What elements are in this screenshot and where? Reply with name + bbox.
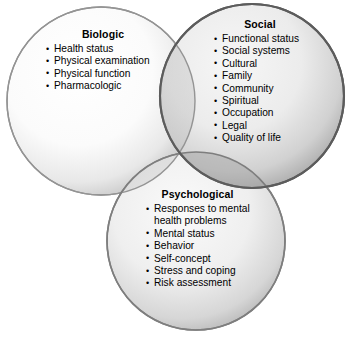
list-item: Legal: [214, 120, 331, 132]
list-item: Mental status: [146, 228, 265, 240]
circle-psychological-title: Psychological: [140, 188, 265, 200]
list-item: Occupation: [214, 107, 331, 119]
list-item: Spiritual: [214, 95, 331, 107]
list-item: Health status: [46, 43, 174, 55]
circle-biologic-list: Health status Physical examination Physi…: [44, 43, 174, 93]
venn-diagram: Biologic Health status Physical examinat…: [0, 0, 356, 346]
circle-social-content: Social Functional status Social systems …: [211, 18, 331, 145]
list-item: Self-concept: [146, 253, 265, 265]
circle-biologic-content: Biologic Health status Physical examinat…: [44, 28, 174, 93]
list-item: Family: [214, 70, 331, 82]
list-item: Physical examination: [46, 55, 174, 67]
list-item: Functional status: [214, 33, 331, 45]
list-item: Pharmacologic: [46, 80, 174, 92]
circle-psychological-list: Responses to mental health problems Ment…: [140, 203, 265, 290]
circle-social-list: Functional status Social systems Cultura…: [211, 33, 331, 145]
list-item: Risk assessment: [146, 277, 265, 289]
list-item: Stress and coping: [146, 265, 265, 277]
circle-social-title: Social: [211, 18, 331, 30]
list-item: Responses to mental health problems: [146, 203, 265, 228]
circle-psychological-content: Psychological Responses to mental health…: [140, 188, 265, 290]
list-item: Cultural: [214, 58, 331, 70]
list-item: Community: [214, 83, 331, 95]
list-item: Social systems: [214, 45, 331, 57]
list-item: Physical function: [46, 68, 174, 80]
list-item: Quality of life: [214, 132, 331, 144]
list-item: Behavior: [146, 240, 265, 252]
circle-biologic-title: Biologic: [44, 28, 174, 40]
